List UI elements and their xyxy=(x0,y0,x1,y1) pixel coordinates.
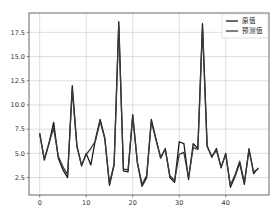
y-tick-label: 10.0 xyxy=(11,101,25,109)
x-tick-label: 20 xyxy=(129,199,137,207)
y-axis: 2.55.07.510.012.515.017.5 xyxy=(11,29,29,182)
y-tick-label: 2.5 xyxy=(15,174,25,182)
y-tick-label: 12.5 xyxy=(11,77,25,85)
legend: 原值 预测值 xyxy=(222,14,268,38)
y-tick-label: 7.5 xyxy=(15,125,25,133)
x-tick-label: 0 xyxy=(38,199,42,207)
y-tick-label: 15.0 xyxy=(11,53,25,61)
line-chart: 2.55.07.510.012.515.017.5 010203040 原值 预… xyxy=(0,0,279,217)
y-tick-label: 17.5 xyxy=(11,29,25,37)
x-axis: 010203040 xyxy=(38,195,230,207)
legend-label-actual: 原值 xyxy=(242,16,256,25)
x-tick-label: 40 xyxy=(222,199,230,207)
x-tick-label: 10 xyxy=(82,199,90,207)
legend-label-predicted: 预测值 xyxy=(242,26,263,35)
y-tick-label: 5.0 xyxy=(15,150,25,158)
plot-area xyxy=(29,13,269,195)
x-tick-label: 30 xyxy=(175,199,183,207)
